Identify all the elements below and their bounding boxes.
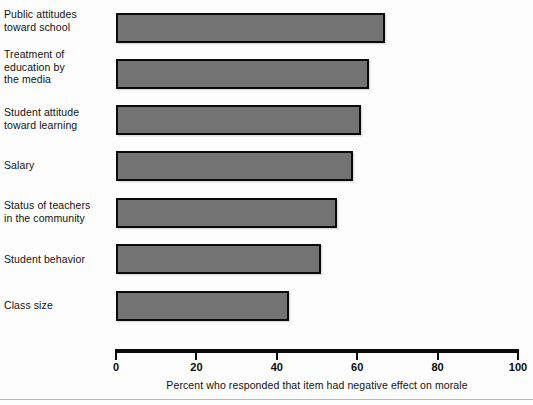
x-axis-tick-60 <box>356 349 358 360</box>
x-axis-tick-80 <box>437 349 439 360</box>
bar-class-size <box>116 291 289 321</box>
category-label-student-attitude-toward-learning: Student attitude toward learning <box>4 106 112 131</box>
bottom-divider <box>0 399 533 400</box>
category-label-status-of-teachers-in-the-community: Status of teachers in the community <box>4 199 112 224</box>
x-axis-tick-label-100: 100 <box>509 361 527 373</box>
category-label-treatment-of-education-by-the-media: Treatment of education by the media <box>4 48 112 86</box>
bar-status-of-teachers-in-the-community <box>116 198 337 228</box>
x-axis-tick-label-40: 40 <box>271 361 283 373</box>
x-axis-tick-40 <box>276 349 278 360</box>
category-label-public-attitudes-toward-school: Public attitudes toward school <box>4 8 112 33</box>
category-label-student-behavior: Student behavior <box>4 253 112 266</box>
x-axis-tick-100 <box>517 349 519 360</box>
category-label-class-size: Class size <box>4 299 112 312</box>
bar-treatment-of-education-by-the-media <box>116 59 369 89</box>
bar-student-attitude-toward-learning <box>116 105 361 135</box>
x-axis-line <box>116 349 518 353</box>
bar-public-attitudes-toward-school <box>116 13 385 43</box>
bar-salary <box>116 151 353 181</box>
x-axis-tick-label-0: 0 <box>113 361 119 373</box>
x-axis-tick-20 <box>195 349 197 360</box>
x-axis-title: Percent who responded that item had nega… <box>116 379 518 391</box>
x-axis-tick-label-80: 80 <box>431 361 443 373</box>
bar-chart: Public attitudes toward school Treatment… <box>0 0 533 405</box>
x-axis-tick-0 <box>115 349 117 360</box>
bar-student-behavior <box>116 244 321 274</box>
category-label-salary: Salary <box>4 159 112 172</box>
x-axis-tick-label-60: 60 <box>351 361 363 373</box>
x-axis-tick-label-20: 20 <box>190 361 202 373</box>
